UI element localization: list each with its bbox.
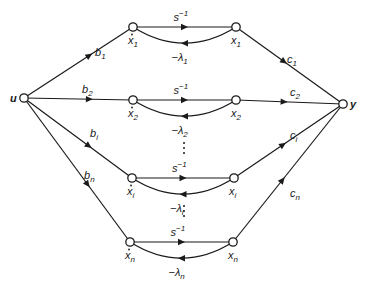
arrow-integrator-i <box>180 175 187 181</box>
label-ci: ci <box>290 129 298 144</box>
label-bi: bi <box>90 127 98 142</box>
node-u <box>20 94 28 102</box>
xdot-dot-2 <box>131 107 133 109</box>
node-y <box>339 100 347 108</box>
label-integrator-2: s−1 <box>174 82 189 96</box>
arrow-c2 <box>281 98 288 104</box>
label-x-i: xi <box>228 185 237 200</box>
edge-bi <box>24 98 132 178</box>
label-feedback-1: −λ1 <box>172 51 188 66</box>
xdot-dot-i <box>130 185 132 187</box>
label-cn: cn <box>290 187 301 202</box>
arrow-cn <box>278 177 285 184</box>
node-xdot-i <box>128 174 136 182</box>
node-xdot-2 <box>129 96 137 104</box>
edge-ci <box>234 104 343 178</box>
arrow-bi <box>84 141 92 148</box>
ellipsis-2-dot <box>183 215 185 217</box>
edge-b1 <box>24 27 133 98</box>
arrow-feedback-2 <box>181 113 188 119</box>
edge-bn <box>24 98 130 242</box>
label-xdot-n: xn <box>124 249 136 264</box>
label-feedback-n: −λn <box>169 266 186 281</box>
label-x-1: x1 <box>230 34 241 49</box>
label-integrator-n: s−1 <box>171 224 186 238</box>
arrow-integrator-2 <box>181 97 188 103</box>
signal-flow-graph: b1x1x1s−1−λ1c1b2x2x2s−1−λ2c2bixixis−1−λi… <box>0 0 365 286</box>
label-xdot-1: x1 <box>127 34 138 49</box>
arrow-integrator-n <box>178 239 185 245</box>
arrow-b1 <box>85 53 93 60</box>
label-integrator-1: s−1 <box>174 9 189 23</box>
node-xdot-n <box>126 238 134 246</box>
arrow-feedback-i <box>180 191 187 197</box>
label-c1: c1 <box>287 53 297 68</box>
node-x-i <box>230 174 238 182</box>
label-b2: b2 <box>82 83 93 98</box>
arrow-c1 <box>279 57 287 64</box>
label-integrator-i: s−1 <box>172 160 187 174</box>
ellipsis-2-dot <box>183 210 185 212</box>
ellipsis-1-dot <box>183 142 185 144</box>
label-x-n: xn <box>227 249 239 264</box>
label-x-2: x2 <box>230 107 242 122</box>
edge-feedback-n <box>130 242 233 258</box>
arrow-ci <box>278 143 286 150</box>
edge-b2 <box>24 98 133 100</box>
xdot-dot-n <box>128 249 130 251</box>
label-xdot-i: xi <box>126 185 135 200</box>
label-u: u <box>10 92 17 104</box>
label-c2: c2 <box>290 86 301 101</box>
ellipsis-1-dot <box>183 152 185 154</box>
edge-c2 <box>236 100 343 104</box>
label-b1: b1 <box>95 46 106 61</box>
node-x-2 <box>232 96 240 104</box>
label-y: y <box>349 98 357 110</box>
edge-feedback-2 <box>133 100 236 116</box>
arrow-integrator-1 <box>181 24 188 30</box>
arrow-feedback-1 <box>181 40 188 46</box>
label-feedback-2: −λ2 <box>172 124 189 139</box>
ellipsis-1-dot <box>183 147 185 149</box>
node-x-1 <box>232 23 240 31</box>
ellipsis-2-dot <box>183 205 185 207</box>
node-xdot-1 <box>129 23 137 31</box>
xdot-dot-1 <box>131 34 133 36</box>
label-feedback-i: −λi <box>170 202 184 217</box>
node-x-n <box>229 238 237 246</box>
edge-feedback-1 <box>133 27 236 43</box>
label-xdot-2: x2 <box>127 107 139 122</box>
edge-feedback-i <box>132 178 234 194</box>
edge-cn <box>233 104 343 242</box>
arrow-feedback-n <box>178 255 185 261</box>
